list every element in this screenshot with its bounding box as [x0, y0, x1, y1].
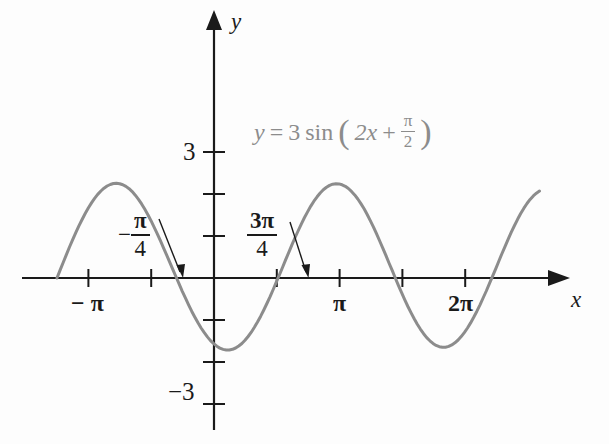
annotation-neg-pi-over-4: − π 4 [118, 209, 150, 261]
equation-function-name: sin [305, 120, 333, 144]
equation-phase-denominator: 2 [401, 133, 416, 151]
annotation-3pi-over-4-denominator: 4 [253, 237, 271, 261]
annotation-neg-pi-over-4-fraction: π 4 [131, 209, 150, 261]
y-tick-label-3: 3 [183, 139, 196, 164]
annotation-neg-pi-over-4-sign: − [118, 223, 131, 246]
equation-equals: = [270, 120, 284, 144]
equation-plus: + [382, 120, 396, 144]
equation-inner-term: 2x [355, 120, 378, 144]
annotation-neg-pi-over-4-denominator: 4 [132, 237, 150, 261]
equation-label: y = 3 sin ( 2x + π 2 ) [254, 112, 432, 151]
leader-arrowhead-3pi-over-4 [302, 264, 311, 278]
annotation-3pi-over-4-numerator: 3π [247, 209, 277, 233]
y-axis-label: y [231, 10, 241, 33]
annotation-3pi-over-4-fraction: 3π 4 [247, 209, 277, 261]
x-tick-label-two-pi: 2π [448, 291, 473, 315]
equation-open-paren: ( [338, 115, 349, 149]
coordinate-plane [0, 0, 609, 444]
x-axis-label: x [571, 288, 581, 311]
leader-arrowhead-neg-pi-over-4 [177, 264, 186, 278]
graph-figure: y x 3 −3 − π π 2π − π 4 3π 4 y = 3 sin (… [0, 0, 609, 444]
annotation-neg-pi-over-4-numerator: π [131, 209, 150, 233]
equation-amplitude: 3 [288, 120, 300, 144]
x-axis-arrowhead [548, 270, 570, 286]
equation-phase-numerator: π [401, 112, 416, 130]
equation-close-paren: ) [420, 115, 431, 149]
x-tick-label-pi: π [333, 291, 346, 315]
y-tick-label-neg-3: −3 [168, 379, 195, 404]
equation-phase-fraction: π 2 [401, 112, 416, 151]
annotation-3pi-over-4: 3π 4 [247, 209, 277, 261]
x-tick-label-neg-pi: − π [71, 291, 104, 315]
y-axis-arrowhead [206, 10, 222, 30]
equation-lhs: y [254, 120, 265, 144]
